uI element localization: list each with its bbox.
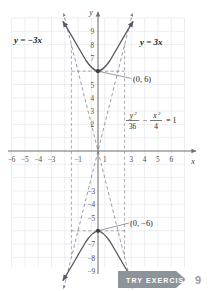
x-tick-label: 1 bbox=[103, 156, 107, 164]
y-axis-label: y bbox=[88, 8, 93, 17]
y-tick-label: 4 bbox=[90, 95, 94, 103]
y-tick-label: 7 bbox=[90, 55, 94, 63]
hyperbola-equation: y 2 36 − x 2 4 = 1 bbox=[126, 111, 177, 132]
page-number: 9 bbox=[195, 274, 201, 286]
y-tick-label: 8 bbox=[90, 42, 94, 50]
x-tick-label: −3 bbox=[48, 156, 56, 164]
y-tick-label: −5 bbox=[87, 215, 95, 223]
leader-line-top bbox=[98, 71, 132, 78]
axes bbox=[8, 12, 196, 274]
y-tick-label: 9 bbox=[90, 28, 94, 36]
x-tick-label: 4 bbox=[143, 156, 147, 164]
asymptote-negative-label: y = −3x bbox=[13, 35, 43, 45]
x-tick-labels: −6 −5 −4 −3 −1 1 3 4 5 6 bbox=[8, 156, 174, 164]
equation-denominator-2: 4 bbox=[154, 123, 158, 131]
vertex-bottom-label: (0, −6) bbox=[130, 219, 153, 228]
x-tick-label: −6 bbox=[8, 156, 16, 164]
y-tick-label: −3 bbox=[87, 188, 95, 196]
equation-equals: = 1 bbox=[166, 116, 177, 125]
vertex-top-label: (0, 6) bbox=[133, 75, 151, 84]
equation-operator: − bbox=[143, 116, 148, 125]
hyperbola-figure: −6 −5 −4 −3 −1 1 3 4 5 6 9 8 7 5 4 3 2 −… bbox=[0, 0, 210, 291]
x-tick-label: −5 bbox=[21, 156, 29, 164]
x-tick-label: 5 bbox=[156, 156, 160, 164]
footer-banner: TRY EXERCISE 9 bbox=[0, 268, 210, 291]
x-axis-label: x bbox=[190, 157, 195, 166]
y-tick-label: 2 bbox=[90, 121, 94, 129]
x-tick-label: −1 bbox=[74, 156, 82, 164]
equation-numerator-1: y bbox=[129, 111, 134, 120]
x-tick-label: −4 bbox=[34, 156, 42, 164]
y-tick-label: −7 bbox=[87, 241, 95, 249]
y-tick-label: 5 bbox=[90, 82, 94, 90]
x-tick-label: 6 bbox=[169, 156, 173, 164]
equation-numerator-2: x bbox=[152, 111, 157, 120]
equation-denominator-1: 36 bbox=[129, 123, 137, 131]
y-tick-label: 3 bbox=[90, 108, 94, 116]
y-tick-label: −8 bbox=[87, 255, 95, 263]
asymptote-positive-label: y = 3x bbox=[139, 37, 163, 47]
try-exercise-label: TRY EXERCISE bbox=[126, 277, 190, 284]
y-tick-label: −4 bbox=[87, 201, 95, 209]
x-tick-label: 3 bbox=[130, 156, 134, 164]
